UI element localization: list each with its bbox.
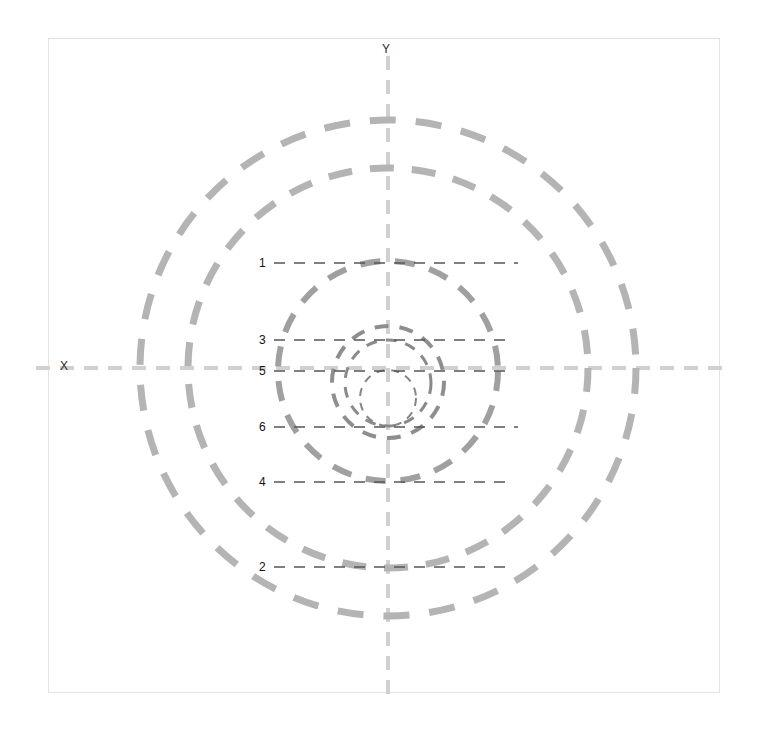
leader-lines-group <box>274 263 518 567</box>
leader-label-5: 5 <box>259 365 266 377</box>
leader-label-1: 1 <box>259 257 266 269</box>
x-axis-label: X <box>60 359 68 373</box>
leader-label-3: 3 <box>259 334 266 346</box>
leader-label-2: 2 <box>259 561 266 573</box>
leader-label-4: 4 <box>259 476 266 488</box>
figure-root: X Y 135642 <box>0 0 766 733</box>
axis-group <box>36 56 732 700</box>
plot-canvas <box>0 0 766 733</box>
y-axis-label: Y <box>382 42 390 56</box>
leader-label-6: 6 <box>259 421 266 433</box>
